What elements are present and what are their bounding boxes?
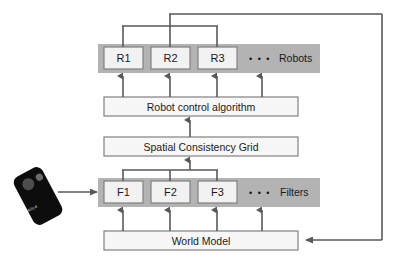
node-box-r1[interactable] — [104, 47, 143, 69]
diagram-canvas: R1 R2 R3 F1 F2 F3 Robot control algorith… — [0, 0, 400, 263]
node-box-f1[interactable] — [104, 181, 143, 203]
arrows-worldmodel-to-filters — [123, 210, 262, 231]
handheld-device-icon — [11, 165, 65, 228]
diagram-vector-layer — [0, 0, 400, 263]
node-box-r3[interactable] — [198, 47, 237, 69]
arrows-control-to-robots — [123, 76, 262, 97]
filters-band-label: Filters — [280, 186, 309, 198]
process-box-world-model[interactable] — [104, 231, 298, 250]
node-box-f2[interactable] — [151, 181, 190, 203]
node-box-r2[interactable] — [151, 47, 190, 69]
process-box-robot-control-algorithm[interactable] — [104, 97, 298, 116]
process-box-spatial-consistency-grid[interactable] — [104, 137, 298, 156]
bracket-filters-to-grid — [122, 160, 218, 181]
node-box-f3[interactable] — [198, 181, 237, 203]
robots-band-label: Robots — [279, 52, 312, 64]
